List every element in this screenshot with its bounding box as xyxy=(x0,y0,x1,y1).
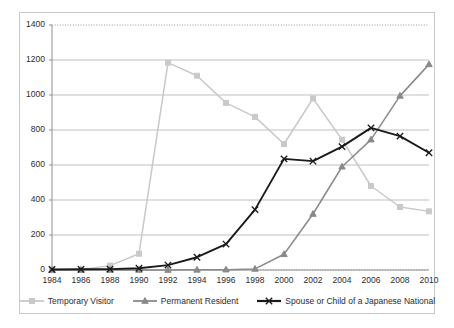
chart-legend: Temporary VisitorPermanent ResidentSpous… xyxy=(0,296,454,306)
legend-label: Permanent Resident xyxy=(161,296,239,306)
legend-item-2[interactable]: Spouse or Child of a Japanese National xyxy=(256,296,435,306)
legend-marker-icon xyxy=(19,296,45,306)
plot-area xyxy=(0,0,454,328)
legend-label: Spouse or Child of a Japanese National xyxy=(285,296,435,306)
legend-marker-icon xyxy=(132,296,158,306)
series-line-0 xyxy=(50,60,432,272)
gridlines xyxy=(52,25,429,270)
legend-marker-icon xyxy=(256,296,282,306)
series-line-1 xyxy=(49,61,432,272)
line-chart: 0200400600800100012001400198419861988199… xyxy=(0,0,454,328)
axis-lines xyxy=(52,25,429,270)
legend-item-1[interactable]: Permanent Resident xyxy=(132,296,239,306)
legend-label: Temporary Visitor xyxy=(48,296,114,306)
series-line-2 xyxy=(49,125,432,273)
legend-item-0[interactable]: Temporary Visitor xyxy=(19,296,114,306)
